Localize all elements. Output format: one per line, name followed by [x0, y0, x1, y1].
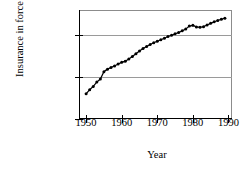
data-point — [134, 52, 137, 55]
data-point — [174, 32, 177, 35]
data-point — [202, 25, 205, 28]
data-series — [79, 10, 232, 119]
data-point — [106, 68, 109, 71]
y-axis-label: Insurance in force — [13, 0, 27, 99]
data-point — [92, 85, 95, 88]
data-point — [149, 43, 152, 46]
x-axis-label: Year — [0, 149, 246, 160]
data-point — [156, 40, 159, 43]
data-point — [181, 29, 184, 32]
data-point — [159, 38, 162, 41]
data-point — [177, 31, 180, 34]
data-markers — [85, 17, 227, 96]
data-point — [120, 61, 123, 64]
x-tick-label: 1990 — [208, 117, 246, 129]
data-point — [170, 34, 173, 37]
data-point — [209, 22, 212, 25]
x-axis-label-text: Year — [79, 149, 166, 160]
data-point — [99, 78, 102, 81]
x-tick-label: 1970 — [137, 117, 177, 129]
data-point — [138, 50, 141, 53]
data-line — [86, 18, 225, 94]
plot-area — [79, 10, 232, 119]
data-point — [127, 58, 130, 61]
data-point — [213, 20, 216, 23]
data-point — [152, 41, 155, 44]
data-point — [216, 19, 219, 22]
data-point — [195, 25, 198, 28]
data-point — [166, 35, 169, 38]
data-point — [163, 37, 166, 40]
data-point — [95, 81, 98, 84]
data-point — [206, 24, 209, 27]
data-point — [124, 60, 127, 63]
data-point — [220, 18, 223, 21]
data-point — [188, 25, 191, 28]
data-point — [88, 88, 91, 91]
data-point — [191, 24, 194, 27]
data-point — [85, 92, 88, 95]
data-point — [184, 28, 187, 31]
data-point — [117, 63, 120, 66]
data-point — [131, 55, 134, 58]
x-tick-label: 1980 — [173, 117, 213, 129]
data-point — [110, 66, 113, 69]
x-tick-label: 1960 — [102, 117, 142, 129]
chart-figure: Insurance in force 100010,000100,000 195… — [0, 0, 246, 170]
x-tick-label: 1950 — [66, 117, 106, 129]
data-point — [113, 64, 116, 67]
data-point — [145, 45, 148, 48]
data-point — [142, 47, 145, 50]
data-point — [198, 26, 201, 29]
data-point — [223, 17, 226, 20]
data-point — [102, 70, 105, 73]
